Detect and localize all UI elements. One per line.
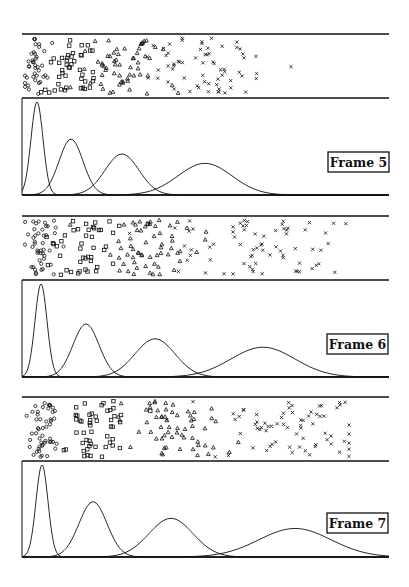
square-marker: [76, 228, 79, 231]
circle-marker: [38, 259, 41, 262]
cross-marker: [255, 413, 258, 416]
square-marker: [84, 222, 87, 225]
cross-marker: [200, 42, 203, 45]
cross-marker: [274, 440, 277, 443]
cross-marker: [213, 62, 216, 65]
cross-marker: [260, 242, 263, 245]
cross-marker: [229, 86, 232, 89]
circle-marker: [41, 405, 44, 408]
square-marker: [80, 77, 83, 80]
circle-marker: [45, 425, 48, 428]
cross-marker: [288, 446, 291, 449]
cross-marker: [171, 67, 174, 70]
cross-marker: [206, 47, 209, 50]
cross-marker: [199, 48, 202, 51]
cross-marker: [252, 248, 255, 251]
cross-marker: [304, 228, 307, 231]
triangle-marker: [170, 410, 174, 413]
triangle-marker: [107, 39, 111, 42]
cross-marker: [311, 422, 314, 425]
cross-marker: [261, 249, 264, 252]
square-marker: [118, 224, 121, 227]
square-marker: [111, 438, 114, 441]
triangle-marker: [170, 435, 174, 438]
triangle-marker: [108, 54, 112, 57]
triangle-marker: [118, 269, 122, 272]
triangle-marker: [154, 415, 158, 418]
square-marker: [60, 56, 63, 59]
circle-marker: [41, 242, 44, 245]
cross-marker: [235, 46, 238, 49]
circle-marker: [37, 69, 40, 72]
scatter-strip: [22, 216, 389, 280]
cross-marker: [261, 272, 264, 275]
triangle-marker: [189, 414, 193, 417]
cross-marker: [201, 61, 204, 64]
scatter-strip: [22, 34, 389, 98]
triangle-marker: [153, 262, 157, 265]
circle-marker: [43, 221, 46, 224]
triangle-marker: [170, 83, 174, 86]
cross-marker: [215, 83, 218, 86]
cross-marker: [335, 406, 338, 409]
square-marker: [93, 221, 96, 224]
cross-marker: [221, 45, 224, 48]
cross-marker: [308, 453, 311, 456]
cross-marker: [262, 235, 265, 238]
cross-marker: [227, 454, 230, 457]
triangle-marker: [93, 39, 97, 42]
square-marker: [80, 44, 83, 47]
density-plot: [22, 461, 389, 557]
square-marker: [79, 247, 82, 250]
cross-marker: [243, 228, 246, 231]
cross-marker: [240, 74, 243, 77]
cross-marker: [187, 230, 190, 233]
cross-marker: [186, 259, 189, 262]
triangle-marker: [136, 61, 140, 64]
square-marker: [81, 73, 84, 76]
triangle-marker: [153, 224, 157, 227]
square-marker: [69, 270, 72, 273]
triangle-marker: [118, 63, 122, 66]
circle-marker: [28, 445, 31, 448]
cross-marker: [190, 248, 193, 251]
circle-marker: [39, 418, 42, 421]
cross-marker: [242, 262, 245, 265]
frame-label-box: Frame 7: [327, 513, 388, 533]
cross-marker: [173, 226, 176, 229]
circle-marker: [43, 402, 46, 405]
circle-marker: [34, 79, 37, 82]
cross-marker: [238, 71, 241, 74]
circle-marker: [48, 249, 51, 252]
triangle-marker: [69, 85, 73, 88]
triangle-marker: [152, 234, 156, 237]
cross-marker: [168, 43, 171, 46]
square-marker: [87, 228, 90, 231]
square-marker: [59, 88, 62, 91]
cross-marker: [274, 245, 277, 248]
density-plot: [22, 98, 389, 195]
circle-marker: [25, 76, 28, 79]
triangle-marker: [116, 52, 120, 55]
cross-marker: [222, 272, 225, 275]
cross-marker: [307, 414, 310, 417]
circle-marker: [32, 236, 35, 239]
circle-marker: [51, 41, 54, 44]
circle-marker: [55, 442, 58, 445]
cross-marker: [255, 246, 258, 249]
triangle-marker: [122, 223, 126, 226]
triangle-marker: [186, 410, 190, 413]
circle-marker: [53, 417, 56, 420]
square-marker: [48, 91, 51, 94]
cross-marker: [291, 451, 294, 454]
circle-marker: [33, 228, 36, 231]
cross-marker: [265, 449, 268, 452]
circle-marker: [41, 64, 44, 67]
cross-marker: [238, 47, 241, 50]
triangle-marker: [158, 231, 162, 234]
triangle-marker: [190, 436, 194, 439]
cross-marker: [245, 224, 248, 227]
frame-label: Frame 5: [330, 155, 388, 170]
cross-marker: [255, 72, 258, 75]
cross-marker: [268, 253, 271, 256]
